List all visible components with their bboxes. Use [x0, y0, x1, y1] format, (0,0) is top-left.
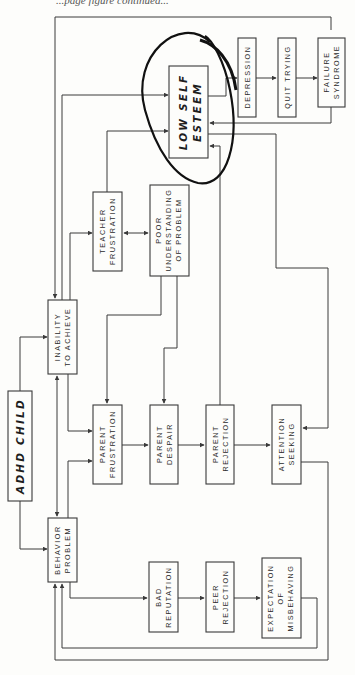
node-behavior-problem: BEHAVIOR PROBLEM	[48, 518, 77, 582]
edge-teacher-to-low-self-esteem	[107, 131, 168, 192]
node-label: REJECTION	[221, 416, 230, 471]
node-label: PROBLEM	[63, 527, 72, 573]
node-depression: DEPRESSION	[238, 38, 256, 117]
node-teacher-frustration: TEACHER FRUSTRATION	[93, 192, 122, 271]
node-failure-syndrome: FAILURE SYNDROME	[318, 38, 345, 107]
node-label: UNDERSTANDING	[164, 189, 173, 272]
node-label: PEER	[211, 584, 220, 610]
node-label: TEACHER	[98, 208, 107, 254]
node-label: OF	[276, 591, 285, 604]
node-parent-despair: PARENT DESPAIR	[150, 405, 178, 484]
edge-poor-understanding-to-parent-despair	[164, 276, 177, 403]
node-adhd-child: ADHD CHILD	[8, 391, 32, 501]
edge-behavior-to-parent-frustration	[68, 461, 92, 518]
node-label: ADHD CHILD	[14, 398, 26, 495]
node-label: DEPRESSION	[243, 45, 252, 108]
node-label: MISBEHAVING	[286, 565, 295, 632]
edge-adhd-to-inability	[20, 337, 47, 391]
node-label: BEHAVIOR	[53, 525, 62, 574]
node-quit-trying: QUIT TRYING	[278, 38, 296, 117]
node-attention-seeking: ATTENTION SEEKING	[272, 405, 301, 484]
edge-inability-to-parent-frustration	[68, 374, 92, 431]
edge-failure-to-low-self-esteem	[210, 107, 331, 123]
node-label: BAD	[154, 587, 163, 607]
flow-diagram: ADHD CHILD INABILITY TO ACHIEVE BEHAVIOR…	[0, 0, 355, 675]
node-label: PARENT	[98, 425, 107, 463]
edge-behavior-to-bad-reputation	[70, 582, 147, 598]
node-label: FRUSTRATION	[108, 410, 117, 478]
node-label: ATTENTION	[277, 417, 286, 472]
node-inability-to-achieve: INABILITY TO ACHIEVE	[48, 300, 77, 374]
node-label: SEEKING	[287, 422, 296, 465]
node-label: ESTEEM	[191, 82, 203, 142]
node-label: INABILITY	[53, 313, 62, 361]
edge-inability-to-teacher	[70, 233, 92, 300]
node-low-self-esteem: LOW SELF ESTEEM	[169, 66, 208, 158]
node-label: QUIT TRYING	[283, 45, 292, 109]
node-label: LOW SELF	[177, 74, 189, 151]
node-label: PARENT	[211, 425, 220, 463]
node-parent-rejection: PARENT REJECTION	[206, 405, 234, 484]
edge-adhd-to-behavior	[20, 501, 47, 549]
edge-low-self-esteem-to-depression	[208, 78, 237, 96]
node-label: SYNDROME	[332, 45, 341, 99]
node-label: DESPAIR	[165, 423, 174, 465]
edge-parent-rejection-to-low-self-esteem	[210, 146, 220, 405]
node-label: POOR	[154, 216, 163, 244]
node-label: REPUTATION	[164, 566, 173, 627]
edge-poor-understanding-to-parent-frustration	[107, 276, 161, 403]
node-label: FAILURE	[322, 51, 331, 92]
node-label: TO ACHIEVE	[63, 307, 72, 366]
node-label: FRUSTRATION	[108, 197, 117, 265]
node-label: EXPECTATION	[266, 564, 275, 631]
node-poor-understanding: POOR UNDERSTANDING OF PROBLEM	[150, 185, 189, 276]
node-label: OF PROBLEM	[174, 198, 183, 261]
edge-low-self-esteem-to-attention	[208, 134, 328, 428]
node-expectation-of-misbehaving: EXPECTATION OF MISBEHAVING	[262, 558, 301, 638]
node-peer-rejection: PEER REJECTION	[206, 562, 234, 632]
node-bad-reputation: BAD REPUTATION	[149, 562, 178, 632]
node-parent-frustration: PARENT FRUSTRATION	[93, 405, 122, 484]
node-label: REJECTION	[221, 569, 230, 624]
node-label: PARENT	[155, 425, 164, 463]
